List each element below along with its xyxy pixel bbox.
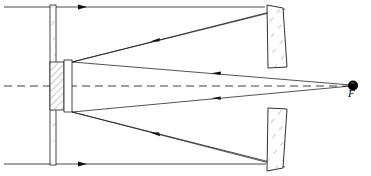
incoming-rays-group (4, 4, 266, 166)
converging-ray-lower-arrowhead (211, 96, 221, 99)
secondary-plain-block (64, 60, 72, 112)
converging-ray-upper-arrowhead (211, 72, 221, 75)
optical-ray-diagram (0, 0, 371, 176)
primary-mirror-lower-segment (267, 108, 287, 171)
reflected-ray-lower-to-secondary (72, 112, 270, 162)
incoming-ray-bottom-arrowhead (78, 161, 87, 166)
incoming-ray-top-arrowhead (78, 4, 87, 9)
diagram-canvas: F (0, 0, 371, 176)
reflected-ray-lower-arrowhead (150, 133, 160, 137)
reflected-ray-upper-arrowhead (150, 38, 160, 42)
converging-ray-upper-to-focus (72, 62, 351, 85)
secondary-assembly (50, 60, 72, 112)
reflected-rays-group (72, 12, 270, 162)
secondary-hatched-block-fill (51, 63, 64, 110)
edge-rays-group (72, 9, 285, 167)
focus-label: F (348, 88, 355, 99)
converging-ray-lower-to-focus (72, 86, 351, 112)
converging-rays-group (72, 62, 351, 112)
primary-mirror-upper-segment (267, 5, 287, 68)
reflected-ray-upper-to-secondary (72, 12, 270, 62)
